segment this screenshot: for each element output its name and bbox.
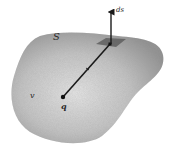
surface-label: S bbox=[53, 32, 60, 42]
closed-surface bbox=[11, 33, 163, 144]
gauss-law-diagram: S ds q v bbox=[0, 0, 174, 149]
diagram-canvas bbox=[0, 0, 174, 149]
charge-point bbox=[61, 95, 65, 99]
volume-label: v bbox=[30, 92, 35, 100]
area-element-label: ds bbox=[116, 7, 124, 14]
charge-label: q bbox=[61, 102, 67, 110]
